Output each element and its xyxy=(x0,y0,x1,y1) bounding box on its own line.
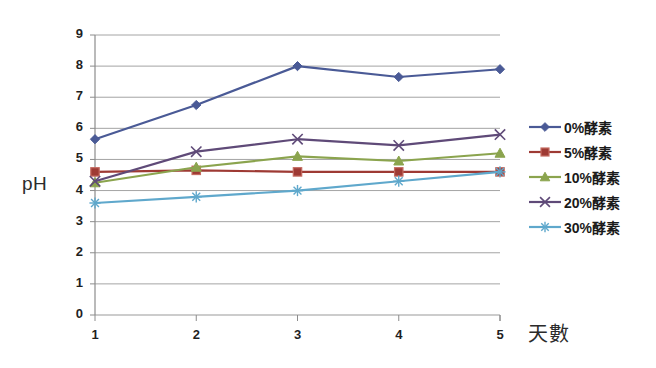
y-tick-label-0: 0 xyxy=(61,306,83,321)
legend-item-2[interactable]: 10%酵素 xyxy=(528,164,654,189)
data-point-asterisk xyxy=(292,185,303,196)
legend-label: 5%酵素 xyxy=(564,142,612,162)
y-tick-label-1: 1 xyxy=(61,275,83,290)
legend-swatch-triangle-icon xyxy=(528,169,562,185)
legend-swatch-square-icon xyxy=(528,144,562,160)
legend-label: 30%酵素 xyxy=(564,217,620,237)
y-tick-label-2: 2 xyxy=(61,244,83,259)
data-point-diamond xyxy=(394,72,403,81)
ph-line-chart: 9876543210 12345 pH 天數 0%酵素5%酵素10%酵素20%酵… xyxy=(0,0,656,368)
legend-item-1[interactable]: 5%酵素 xyxy=(528,139,654,164)
x-tick-label-3: 3 xyxy=(286,327,310,342)
data-point-diamond xyxy=(90,135,99,144)
y-tick-label-3: 3 xyxy=(61,213,83,228)
data-point-asterisk xyxy=(393,176,404,187)
chart-legend: 0%酵素5%酵素10%酵素20%酵素30%酵素 xyxy=(528,114,654,239)
data-point-asterisk xyxy=(89,197,100,208)
data-point-square xyxy=(395,168,403,176)
y-tick-label-6: 6 xyxy=(61,119,83,134)
y-tick-label-8: 8 xyxy=(61,57,83,72)
data-point-square xyxy=(91,168,99,176)
x-tick-label-2: 2 xyxy=(184,327,208,342)
y-tick-label-5: 5 xyxy=(61,150,83,165)
y-tick-label-7: 7 xyxy=(61,88,83,103)
data-point-asterisk xyxy=(540,221,551,232)
data-point-diamond xyxy=(293,62,302,71)
data-point-asterisk xyxy=(191,191,202,202)
data-series-group xyxy=(89,62,505,209)
x-axis-title: 天數 xyxy=(528,318,569,347)
legend-swatch-asterisk-icon xyxy=(528,219,562,235)
y-axis-title: pH xyxy=(22,173,47,195)
legend-item-3[interactable]: 20%酵素 xyxy=(528,189,654,214)
y-tick-label-4: 4 xyxy=(61,182,83,197)
x-tick-label-5: 5 xyxy=(488,327,512,342)
x-tick-label-1: 1 xyxy=(83,327,107,342)
data-point-diamond xyxy=(541,122,550,131)
series-0 xyxy=(90,62,504,144)
data-point-square xyxy=(541,148,549,156)
legend-item-0[interactable]: 0%酵素 xyxy=(528,114,654,139)
data-point-diamond xyxy=(192,100,201,109)
legend-label: 20%酵素 xyxy=(564,192,620,212)
legend-swatch-cross-icon xyxy=(528,194,562,210)
legend-item-4[interactable]: 30%酵素 xyxy=(528,214,654,239)
y-tick-label-9: 9 xyxy=(61,26,83,41)
legend-swatch-diamond-icon xyxy=(528,119,562,135)
legend-label: 0%酵素 xyxy=(564,117,612,137)
x-tick-label-4: 4 xyxy=(387,327,411,342)
data-point-square xyxy=(293,168,301,176)
legend-label: 10%酵素 xyxy=(564,167,620,187)
